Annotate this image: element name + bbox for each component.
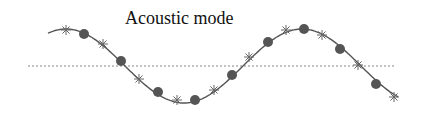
star-marker-icon bbox=[353, 60, 363, 70]
circle-marker bbox=[299, 24, 309, 34]
star-marker-icon bbox=[244, 52, 254, 62]
diagram-title: Acoustic mode bbox=[125, 8, 233, 29]
star-marker-icon bbox=[281, 25, 291, 35]
acoustic-mode-diagram: Acoustic mode bbox=[0, 0, 423, 140]
circle-marker bbox=[79, 29, 89, 39]
circle-marker bbox=[190, 95, 200, 105]
star-marker-icon bbox=[134, 74, 144, 84]
star-marker-icon bbox=[209, 85, 219, 95]
circle-marker bbox=[227, 70, 237, 80]
star-marker-icon bbox=[172, 95, 182, 105]
star-marker-icon bbox=[389, 92, 399, 102]
star-marker-icon bbox=[317, 30, 327, 40]
star-marker-icon bbox=[98, 39, 108, 49]
circle-marker bbox=[371, 79, 381, 89]
star-marker-icon bbox=[61, 25, 71, 35]
star-markers bbox=[61, 25, 399, 105]
circle-markers bbox=[79, 24, 381, 105]
circle-marker bbox=[116, 56, 126, 66]
circle-marker bbox=[153, 87, 163, 97]
circle-marker bbox=[335, 44, 345, 54]
circle-marker bbox=[263, 37, 273, 47]
